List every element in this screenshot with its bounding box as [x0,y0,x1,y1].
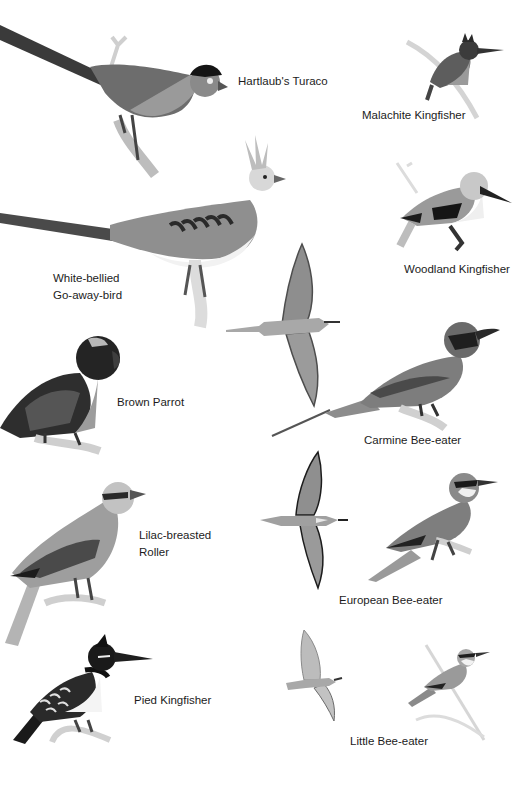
european-bee-eater-perched-illustration [366,470,500,585]
european-bee-eater-flying-illustration [256,450,348,590]
bird-identification-plate: Hartlaub's Turaco Malachite Kingfisher [0,0,525,793]
label-european-bee-eater: European Bee-eater [339,592,443,609]
label-lilac-breasted-roller-line1: Lilac-breasted [139,527,211,544]
label-brown-parrot: Brown Parrot [117,394,184,411]
pied-kingfisher-illustration [10,632,155,747]
label-carmine-bee-eater: Carmine Bee-eater [364,432,461,449]
label-little-bee-eater: Little Bee-eater [350,733,428,750]
label-hartlaubs-turaco: Hartlaub's Turaco [238,73,328,90]
label-malachite-kingfisher: Malachite Kingfisher [362,107,466,124]
label-woodland-kingfisher: Woodland Kingfisher [404,261,510,278]
label-pied-kingfisher: Pied Kingfisher [134,692,211,709]
label-lilac-breasted-roller-line2: Roller [139,544,169,561]
brown-parrot-illustration [0,333,125,455]
little-bee-eater-flying-illustration [284,628,342,723]
label-white-bellied-go-away-bird-line2: Go-away-bird [53,287,122,304]
woodland-kingfisher-illustration [392,158,514,258]
lilac-breasted-roller-illustration [0,478,148,648]
carmine-bee-eater-perched-illustration [270,318,502,440]
little-bee-eater-perched-illustration [406,645,491,743]
label-white-bellied-go-away-bird-line1: White-bellied [53,270,119,287]
